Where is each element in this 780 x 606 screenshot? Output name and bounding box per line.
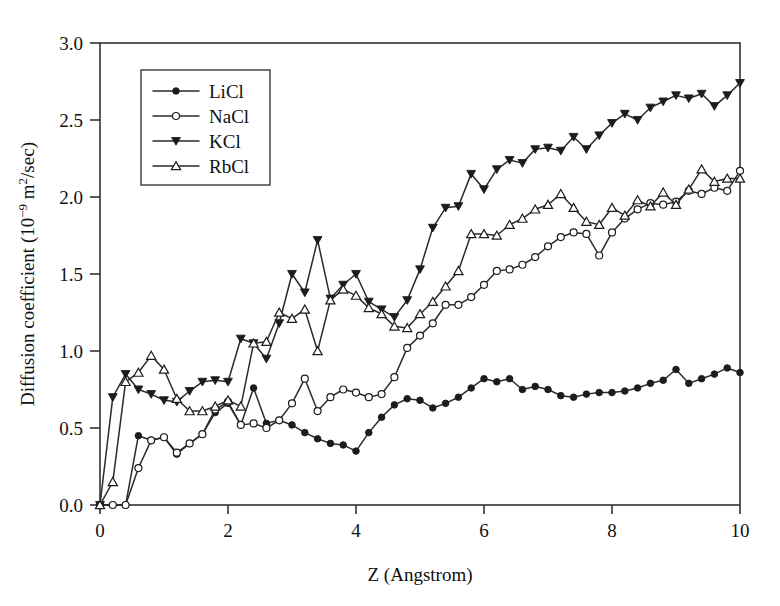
- marker-licl-24: [404, 395, 411, 402]
- x-tick-label-5: 10: [731, 520, 750, 541]
- marker-nacl-19: [340, 386, 347, 393]
- x-axis-title: Z (Angstrom): [367, 564, 472, 586]
- chart-background: [0, 0, 780, 606]
- marker-nacl-34: [532, 254, 539, 261]
- legend-marker-nacl: [173, 113, 180, 120]
- legend-label-nacl: NaCl: [209, 106, 249, 127]
- marker-nacl-20: [353, 389, 360, 396]
- marker-nacl-12: [250, 420, 257, 427]
- marker-nacl-15: [289, 400, 296, 407]
- marker-licl-3: [135, 432, 142, 439]
- marker-nacl-35: [545, 243, 552, 250]
- marker-nacl-26: [429, 320, 436, 327]
- marker-nacl-22: [378, 391, 385, 398]
- marker-licl-18: [327, 440, 334, 447]
- marker-nacl-44: [660, 201, 667, 208]
- marker-nacl-47: [698, 190, 705, 197]
- legend-border: [141, 70, 270, 185]
- marker-nacl-3: [135, 465, 142, 472]
- marker-nacl-13: [263, 425, 270, 432]
- marker-licl-27: [442, 400, 449, 407]
- marker-licl-47: [698, 375, 705, 382]
- marker-nacl-4: [148, 437, 155, 444]
- marker-nacl-6: [173, 449, 180, 456]
- marker-licl-48: [711, 371, 718, 378]
- diffusion-coefficient-chart: 0246810 0.00.51.01.52.02.53.0 Z (Angstro…: [0, 0, 780, 606]
- marker-nacl-49: [724, 187, 731, 194]
- marker-nacl-5: [161, 434, 168, 441]
- marker-licl-38: [583, 391, 590, 398]
- chart-legend[interactable]: LiClNaClKClRbCl: [141, 70, 270, 185]
- marker-nacl-16: [301, 375, 308, 382]
- marker-licl-28: [455, 394, 462, 401]
- marker-licl-43: [647, 380, 654, 387]
- marker-licl-46: [686, 380, 693, 387]
- marker-licl-20: [353, 448, 360, 455]
- legend-label-kcl: KCl: [209, 131, 241, 152]
- marker-nacl-33: [519, 261, 526, 268]
- marker-nacl-31: [493, 267, 500, 274]
- marker-licl-17: [314, 435, 321, 442]
- marker-licl-33: [519, 386, 526, 393]
- legend-marker-licl: [173, 88, 180, 95]
- marker-licl-32: [506, 375, 513, 382]
- marker-licl-34: [532, 383, 539, 390]
- marker-licl-44: [660, 377, 667, 384]
- marker-licl-41: [622, 388, 629, 395]
- marker-nacl-14: [276, 417, 283, 424]
- marker-licl-39: [596, 389, 603, 396]
- marker-licl-29: [468, 385, 475, 392]
- marker-nacl-42: [634, 206, 641, 213]
- marker-nacl-37: [570, 229, 577, 236]
- marker-licl-22: [378, 414, 385, 421]
- marker-licl-45: [673, 366, 680, 373]
- marker-nacl-36: [557, 234, 564, 241]
- x-tick-label-4: 8: [607, 520, 617, 541]
- x-tick-label-1: 2: [223, 520, 233, 541]
- marker-licl-19: [340, 442, 347, 449]
- marker-nacl-29: [468, 294, 475, 301]
- y-tick-label-0: 0.0: [59, 495, 83, 516]
- y-tick-label-6: 3.0: [59, 33, 83, 54]
- x-tick-label-3: 6: [479, 520, 489, 541]
- x-axis-title-text: Z (Angstrom): [367, 564, 472, 586]
- marker-licl-35: [545, 386, 552, 393]
- marker-nacl-27: [442, 301, 449, 308]
- marker-licl-30: [481, 375, 488, 382]
- marker-nacl-25: [417, 332, 424, 339]
- marker-licl-12: [250, 385, 257, 392]
- marker-nacl-39: [596, 252, 603, 259]
- marker-nacl-7: [186, 440, 193, 447]
- x-tick-label-0: 0: [95, 520, 105, 541]
- y-tick-label-5: 2.5: [59, 110, 83, 131]
- marker-licl-40: [609, 389, 616, 396]
- marker-licl-31: [494, 379, 501, 386]
- x-tick-label-2: 4: [351, 520, 361, 541]
- marker-licl-49: [724, 365, 731, 372]
- marker-nacl-40: [609, 229, 616, 236]
- y-tick-label-2: 1.0: [59, 341, 83, 362]
- marker-nacl-8: [199, 431, 206, 438]
- legend-label-rbcl: RbCl: [209, 156, 249, 177]
- marker-licl-16: [302, 429, 309, 436]
- marker-licl-25: [417, 397, 424, 404]
- marker-nacl-21: [365, 394, 372, 401]
- marker-nacl-1: [109, 502, 116, 509]
- marker-licl-42: [634, 385, 641, 392]
- marker-licl-15: [289, 422, 296, 429]
- marker-licl-36: [558, 392, 565, 399]
- marker-nacl-32: [506, 266, 513, 273]
- marker-nacl-28: [455, 301, 462, 308]
- marker-nacl-30: [481, 281, 488, 288]
- marker-nacl-24: [404, 344, 411, 351]
- marker-licl-50: [737, 369, 744, 376]
- marker-licl-37: [570, 394, 577, 401]
- marker-nacl-18: [327, 394, 334, 401]
- marker-nacl-38: [583, 230, 590, 237]
- y-tick-label-3: 1.5: [59, 264, 83, 285]
- marker-licl-23: [391, 402, 398, 409]
- marker-licl-26: [430, 405, 437, 412]
- marker-nacl-23: [391, 374, 398, 381]
- marker-licl-21: [366, 429, 373, 436]
- y-tick-label-1: 0.5: [59, 418, 83, 439]
